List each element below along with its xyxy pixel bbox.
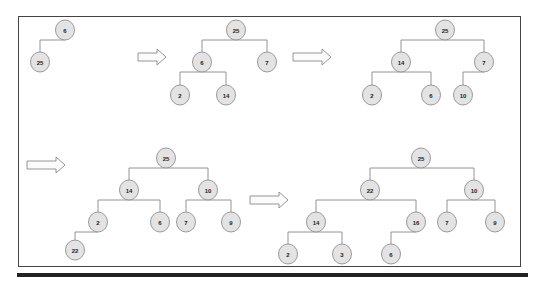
tree-node: 25 — [31, 52, 50, 72]
tree-node: 7 — [475, 52, 494, 72]
tree-node: 3 — [333, 244, 352, 264]
node-label: 14 — [126, 188, 133, 194]
tree-node: 10 — [199, 180, 218, 200]
tree-node: 7 — [258, 52, 277, 72]
tree-node: 25 — [157, 148, 176, 168]
step-arrow-icon — [138, 49, 166, 65]
tree-edge — [208, 198, 231, 214]
tree-node: 25 — [436, 20, 455, 40]
node-label: 25 — [442, 28, 449, 34]
tree-node: 10 — [465, 180, 484, 200]
node-label: 10 — [460, 93, 467, 99]
tree-edge — [186, 198, 208, 214]
tree-node: 25 — [412, 148, 431, 168]
heap-diagram-canvas: 6252567214251472610251410267922252210141… — [0, 0, 537, 284]
tree-node: 2 — [89, 212, 108, 232]
tree-node: 2 — [279, 244, 298, 264]
tree-node: 14 — [307, 212, 326, 232]
node-label: 14 — [223, 93, 230, 99]
node-label: 10 — [471, 188, 478, 194]
tree-node: 22 — [66, 240, 85, 260]
node-label: 14 — [313, 220, 320, 226]
tree-edge — [202, 70, 226, 87]
tree-step-5 — [288, 166, 495, 246]
tree-edge — [370, 198, 416, 214]
tree-edge — [447, 198, 474, 214]
node-label: 22 — [72, 248, 79, 254]
tree-edge — [288, 230, 316, 246]
tree-node: 25 — [227, 20, 246, 40]
arrows-layer — [27, 49, 331, 208]
step-arrow-icon — [27, 157, 65, 173]
node-label: 14 — [398, 60, 405, 66]
node-label: 25 — [233, 28, 240, 34]
node-label: 16 — [413, 220, 420, 226]
tree-edge — [370, 166, 421, 182]
tree-edge — [316, 230, 342, 246]
tree-node: 14 — [120, 180, 139, 200]
node-label: 22 — [367, 188, 374, 194]
tree-edge — [474, 198, 495, 214]
tree-step-3 — [372, 38, 484, 87]
tree-node: 7 — [177, 212, 196, 232]
tree-edge — [316, 198, 370, 214]
tree-edge — [129, 166, 166, 182]
node-label: 10 — [205, 188, 212, 194]
tree-edge — [463, 70, 484, 87]
tree-edge — [401, 38, 445, 54]
tree-node: 10 — [454, 85, 473, 105]
tree-edge — [98, 198, 129, 214]
tree-edge — [372, 70, 401, 87]
tree-node: 14 — [392, 52, 411, 72]
nodes-layer: 6252567214251472610251410267922252210141… — [31, 20, 505, 264]
tree-node: 6 — [193, 52, 212, 72]
tree-edge — [180, 70, 202, 87]
tree-edge — [445, 38, 484, 54]
tree-node: 2 — [171, 85, 190, 105]
tree-edge — [421, 166, 474, 182]
node-label: 25 — [163, 156, 170, 162]
tree-edge — [40, 38, 65, 54]
tree-node: 2 — [363, 85, 382, 105]
tree-node: 6 — [422, 85, 441, 105]
tree-edge — [391, 230, 416, 246]
tree-step-1 — [40, 38, 65, 54]
tree-edge — [129, 198, 160, 214]
step-arrow-icon — [293, 49, 331, 65]
tree-node: 6 — [151, 212, 170, 232]
tree-node: 9 — [222, 212, 241, 232]
tree-edge — [401, 70, 431, 87]
tree-edge — [202, 38, 236, 54]
tree-node: 16 — [407, 212, 426, 232]
node-label: 25 — [418, 156, 425, 162]
tree-node: 7 — [438, 212, 457, 232]
tree-node: 14 — [217, 85, 236, 105]
tree-edge — [236, 38, 267, 54]
tree-node: 6 — [382, 244, 401, 264]
tree-edge — [166, 166, 208, 182]
tree-node: 9 — [486, 212, 505, 232]
step-arrow-icon — [250, 192, 288, 208]
tree-node: 22 — [361, 180, 380, 200]
node-label: 25 — [37, 60, 44, 66]
tree-node: 6 — [56, 20, 75, 40]
